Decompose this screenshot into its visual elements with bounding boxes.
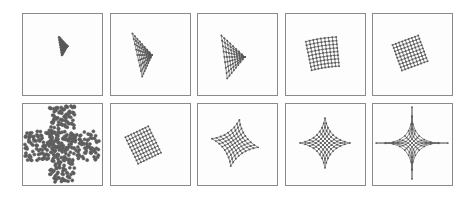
mesh-diamond [286, 104, 365, 185]
panel-2 [110, 13, 191, 96]
mesh-blob [23, 14, 102, 95]
mesh-star [373, 104, 452, 185]
mesh-square-tilted [373, 14, 452, 95]
panel-5 [372, 13, 453, 96]
panel-7 [110, 103, 191, 186]
mesh-rotated [111, 104, 190, 185]
mesh-square [286, 14, 365, 95]
panel-4 [285, 13, 366, 96]
mesh-concave [198, 104, 277, 185]
panel-9 [285, 103, 366, 186]
panel-10 [372, 103, 453, 186]
panel-6 [22, 103, 103, 186]
point-cloud-cross [23, 104, 102, 185]
panel-8 [197, 103, 278, 186]
mesh-fan [111, 14, 190, 95]
mesh-fan-wide [198, 14, 277, 95]
panel-1 [22, 13, 103, 96]
panel-3 [197, 13, 278, 96]
